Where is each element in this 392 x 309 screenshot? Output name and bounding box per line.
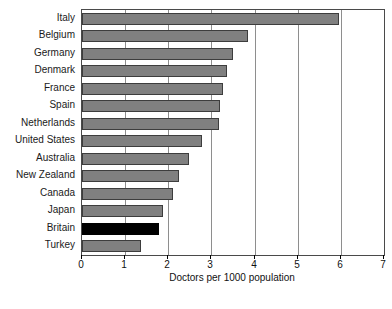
category-label: Spain bbox=[0, 99, 75, 110]
x-tick-label: 7 bbox=[371, 259, 392, 271]
bar bbox=[82, 223, 159, 235]
bar bbox=[82, 240, 141, 252]
bar bbox=[82, 205, 163, 217]
bar bbox=[82, 13, 339, 25]
category-label: New Zealand bbox=[0, 169, 75, 180]
category-label: Belgium bbox=[0, 29, 75, 40]
bar bbox=[82, 65, 227, 77]
bar bbox=[82, 153, 189, 165]
bar bbox=[82, 170, 179, 182]
category-label: Japan bbox=[0, 204, 75, 215]
bar-chart-figure: ItalyBelgiumGermanyDenmarkFranceSpainNet… bbox=[0, 0, 392, 309]
x-tick-label: 2 bbox=[155, 259, 179, 271]
plot-area bbox=[81, 9, 385, 256]
category-label: United States bbox=[0, 134, 75, 145]
category-label: Italy bbox=[0, 12, 75, 23]
category-label: Canada bbox=[0, 187, 75, 198]
category-label: Denmark bbox=[0, 64, 75, 75]
bars-layer bbox=[82, 10, 384, 255]
x-axis-title: Doctors per 1000 population bbox=[81, 272, 383, 284]
x-tick-label: 4 bbox=[242, 259, 266, 271]
category-label: France bbox=[0, 82, 75, 93]
bar bbox=[82, 30, 248, 42]
x-tick-label: 1 bbox=[112, 259, 136, 271]
x-tick-label: 5 bbox=[285, 259, 309, 271]
bar bbox=[82, 188, 173, 200]
category-label: Turkey bbox=[0, 239, 75, 250]
bar bbox=[82, 48, 233, 60]
bar bbox=[82, 100, 220, 112]
category-label: Britain bbox=[0, 222, 75, 233]
x-tick-label: 3 bbox=[198, 259, 222, 271]
bar bbox=[82, 135, 202, 147]
category-label: Netherlands bbox=[0, 117, 75, 128]
category-axis: ItalyBelgiumGermanyDenmarkFranceSpainNet… bbox=[0, 8, 78, 254]
x-tick-label: 0 bbox=[69, 259, 93, 271]
category-label: Australia bbox=[0, 152, 75, 163]
bar bbox=[82, 83, 223, 95]
x-tick-label: 6 bbox=[328, 259, 352, 271]
category-label: Germany bbox=[0, 47, 75, 58]
bar bbox=[82, 118, 219, 130]
